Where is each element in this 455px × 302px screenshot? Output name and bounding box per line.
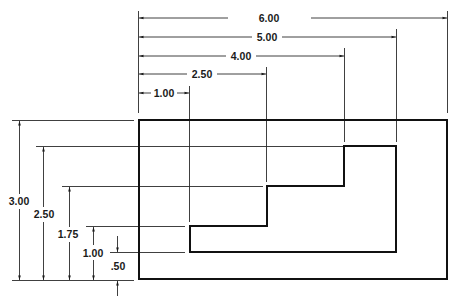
horizontal-dimension-labels: 6.00 5.00 4.00 2.50 1.00	[154, 12, 280, 99]
vertical-dimension-labels: 3.00 2.50 1.75 1.00 .50	[9, 195, 126, 272]
dim-label-1-75: 1.75	[58, 228, 79, 240]
dim-label-4-00: 4.00	[231, 50, 252, 62]
outer-rectangle	[139, 120, 447, 279]
dim-label-0-50: .50	[111, 260, 126, 272]
dim-label-2-50: 2.50	[192, 68, 213, 80]
dim-label-1-00-vertical: 1.00	[83, 247, 104, 259]
technical-drawing: 6.00 5.00 4.00 2.50 1.00 3.00 2.50 1.75 …	[0, 0, 455, 302]
horizontal-extension-lines	[12, 121, 343, 281]
dim-label-6-00: 6.00	[259, 12, 280, 24]
dim-label-5-00: 5.00	[257, 31, 278, 43]
vertical-extension-lines	[139, 11, 448, 222]
dim-label-2-50-vertical: 2.50	[34, 208, 55, 220]
dim-label-3-00: 3.00	[9, 195, 30, 207]
dim-label-1-00: 1.00	[154, 87, 175, 99]
inner-stepped-profile	[190, 146, 396, 252]
horizontal-dimension-lines	[139, 18, 447, 93]
